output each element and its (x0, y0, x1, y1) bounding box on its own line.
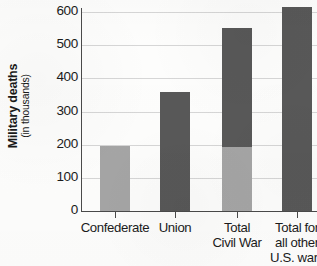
x-label-line: Total for (249, 221, 317, 236)
x-tick-3 (297, 211, 298, 218)
y-axis-line (81, 8, 82, 212)
bar-1 (160, 92, 190, 211)
bar-chart-figure: Military deaths (in thousands) 010020030… (0, 0, 317, 266)
x-label-line: all other (249, 236, 317, 251)
bar-segment-0-0 (100, 146, 130, 211)
bar-segment-2-0 (222, 147, 252, 211)
bar-segment-3-1 (282, 7, 312, 211)
x-axis-label-3: Total forall otherU.S. wars (249, 221, 317, 266)
bar-0 (100, 146, 130, 211)
x-tick-0 (115, 211, 116, 218)
x-tick-1 (175, 211, 176, 218)
bar-segment-2-1 (222, 28, 252, 147)
x-label-line: U.S. wars (249, 251, 317, 266)
bar-2 (222, 28, 252, 211)
x-tick-2 (237, 211, 238, 218)
bar-segment-1-1 (160, 92, 190, 211)
x-axis-line (81, 211, 317, 212)
bar-3 (282, 7, 312, 211)
bars-layer: ConfederateUnionTotalCivil WarTotal fora… (0, 0, 317, 266)
